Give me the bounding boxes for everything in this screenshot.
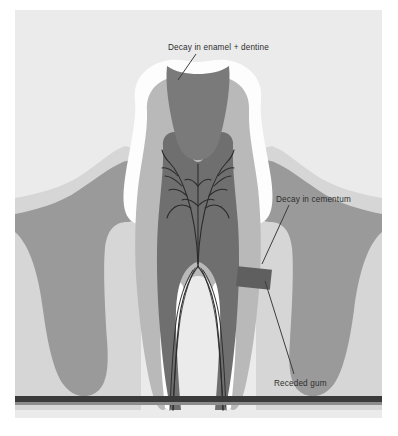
bone-baseline (15, 396, 382, 402)
label-decay-cementum: Decay in cementum (276, 196, 351, 204)
illustration-panel: Decay in enamel + dentine Decay in cemen… (15, 10, 382, 418)
bone-baseline-shadow (15, 402, 382, 405)
figure-canvas: Decay in enamel + dentine Decay in cemen… (0, 0, 398, 436)
tooth-illustration (15, 10, 382, 418)
label-decay-enamel-dentine: Decay in enamel + dentine (168, 44, 269, 52)
cropped-top-text (2, 0, 122, 7)
label-receded-gum: Receded gum (274, 380, 327, 388)
